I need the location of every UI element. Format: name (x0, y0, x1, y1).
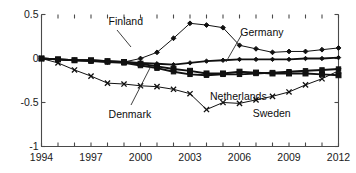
data-point-marker (303, 49, 308, 54)
data-point-marker (287, 49, 292, 54)
data-point-marker (138, 63, 142, 67)
data-point-marker (188, 72, 192, 76)
data-point-marker (72, 67, 77, 72)
series-finland (39, 21, 341, 65)
data-point-marker (122, 61, 126, 65)
data-point-marker (270, 70, 274, 74)
series-label-denmark: Denmark (109, 109, 152, 120)
plot-frame (42, 15, 339, 147)
data-point-marker (88, 74, 93, 79)
series-label-sweden: Sweden (253, 108, 291, 119)
data-point-marker (155, 66, 159, 70)
data-point-marker (303, 56, 307, 60)
x-tick-label: 1994 (27, 152, 57, 163)
chart-axes (42, 15, 339, 147)
x-tick-label: 2012 (324, 152, 354, 163)
line-chart-plot (0, 0, 356, 173)
data-point-marker (336, 46, 341, 51)
series-path-finland (42, 23, 339, 62)
chart-series (39, 21, 341, 112)
x-tick-label: 1997 (76, 152, 106, 163)
data-point-marker (287, 70, 291, 74)
data-point-marker (303, 69, 307, 73)
x-tick-label: 2006 (225, 152, 255, 163)
x-tick-label: 2009 (274, 152, 304, 163)
data-point-marker (237, 72, 241, 76)
y-tick-label: 0.5 (24, 9, 39, 20)
series-label-germany: Germany (240, 27, 283, 38)
data-point-marker (320, 47, 325, 52)
data-point-marker (204, 59, 208, 63)
leader-line (117, 30, 131, 47)
data-point-marker (105, 60, 109, 64)
data-point-marker (171, 70, 175, 74)
data-point-marker (237, 57, 241, 61)
y-tick-label: 0 (33, 53, 39, 64)
data-point-marker (204, 23, 209, 28)
y-tick-label: -0.5 (20, 97, 38, 108)
data-point-marker (72, 58, 76, 62)
data-point-marker (254, 71, 258, 75)
data-point-marker (221, 72, 225, 76)
data-point-marker (320, 56, 324, 60)
series-label-netherlands: Netherlands (210, 91, 267, 102)
x-tick-label: 2000 (126, 152, 156, 163)
data-point-marker (303, 82, 308, 87)
data-point-marker (270, 50, 275, 55)
chart-figure: 0.50-0.5-1 1994199720002003200620092012 … (0, 0, 356, 173)
data-point-marker (204, 73, 208, 77)
data-point-marker (287, 57, 291, 61)
series-path-sweden (42, 59, 339, 110)
y-tick-label: -1 (29, 141, 38, 152)
series-label-finland: Finland (109, 16, 143, 27)
data-point-marker (270, 57, 274, 61)
data-point-marker (254, 46, 259, 51)
x-tick-label: 2003 (175, 152, 205, 163)
data-point-marker (336, 55, 340, 59)
data-point-marker (204, 107, 209, 112)
data-point-marker (221, 58, 225, 62)
data-point-marker (89, 59, 93, 63)
data-point-marker (254, 57, 258, 61)
data-point-marker (320, 68, 324, 72)
data-point-marker (188, 61, 192, 65)
